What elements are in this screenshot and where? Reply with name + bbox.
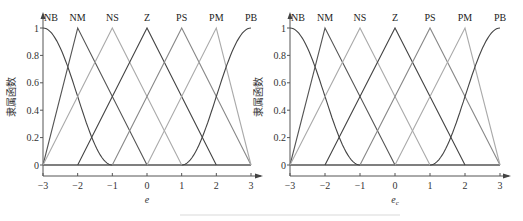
mf-label-nb: NB xyxy=(291,12,305,23)
x-tick-label: −1 xyxy=(107,180,118,191)
y-tick-label: 0.8 xyxy=(27,50,40,61)
x-tick-label: −3 xyxy=(38,180,49,191)
x-tick-label: −1 xyxy=(355,180,366,191)
y-tick-label: 1 xyxy=(281,23,286,34)
y-tick-label: 1 xyxy=(34,23,39,34)
mf-label-nb: NB xyxy=(44,12,58,23)
x-axis-label: ec xyxy=(391,194,399,207)
x-tick-label: 3 xyxy=(498,180,503,191)
x-tick-label: 2 xyxy=(214,180,219,191)
x-tick-label: 0 xyxy=(393,180,398,191)
y-tick-label: 0 xyxy=(34,160,39,171)
mf-label-ps: PS xyxy=(176,12,187,23)
x-axis-arrow-icon xyxy=(255,174,263,179)
x-axis-arrow-icon xyxy=(503,174,511,179)
mf-label-nm: NM xyxy=(70,12,86,23)
x-axis-label: e xyxy=(145,194,150,205)
mf-label-ns: NS xyxy=(106,12,119,23)
chart-1: 00.20.40.60.81−3−2−10123NBNMNSZPSPMPB隶属函… xyxy=(5,12,263,205)
y-tick-label: 0.4 xyxy=(27,105,40,116)
y-axis-label: 隶属函数 xyxy=(252,77,264,117)
x-tick-label: −3 xyxy=(285,180,296,191)
x-tick-label: 3 xyxy=(249,180,254,191)
mf-label-z: Z xyxy=(144,12,150,23)
x-tick-label: −2 xyxy=(320,180,331,191)
x-tick-label: −2 xyxy=(72,180,83,191)
y-tick-label: 0.2 xyxy=(27,132,40,143)
y-tick-label: 0.6 xyxy=(274,77,287,88)
x-tick-label: 1 xyxy=(428,180,433,191)
x-tick-label: 2 xyxy=(463,180,468,191)
x-tick-label: 1 xyxy=(179,180,184,191)
y-tick-label: 0.6 xyxy=(27,77,40,88)
chart-2: 00.20.40.60.81−3−2−10123NBNMNSZPSPMPB隶属函… xyxy=(252,12,511,207)
mf-label-ns: NS xyxy=(354,12,367,23)
mf-label-pm: PM xyxy=(209,12,224,23)
mf-label-pb: PB xyxy=(245,12,258,23)
y-tick-label: 0 xyxy=(281,160,286,171)
y-axis-label: 隶属函数 xyxy=(5,77,17,117)
y-tick-label: 0.2 xyxy=(274,132,287,143)
y-tick-label: 0.4 xyxy=(274,105,287,116)
mf-label-pb: PB xyxy=(494,12,507,23)
mf-label-ps: PS xyxy=(424,12,435,23)
y-tick-label: 0.8 xyxy=(274,50,287,61)
x-tick-label: 0 xyxy=(145,180,150,191)
membership-function-charts: 00.20.40.60.81−3−2−10123NBNMNSZPSPMPB隶属函… xyxy=(0,0,523,221)
mf-label-pm: PM xyxy=(458,12,473,23)
caption-divider xyxy=(180,214,400,216)
mf-label-z: Z xyxy=(392,12,398,23)
mf-label-nm: NM xyxy=(317,12,333,23)
